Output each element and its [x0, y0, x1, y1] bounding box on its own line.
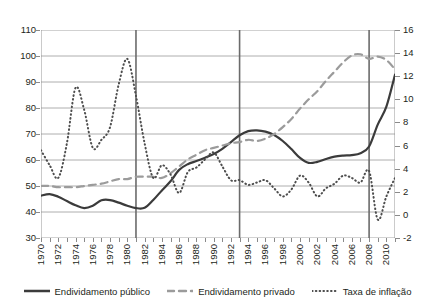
- x-axis-tick: [41, 238, 42, 242]
- x-axis-tick-label: 1980: [122, 244, 132, 265]
- x-axis-tick-label: 2008: [364, 244, 374, 265]
- x-axis-tick: [343, 238, 344, 242]
- x-axis-tick: [50, 238, 51, 242]
- x-axis-tick: [378, 238, 379, 242]
- x-axis-tick: [179, 238, 180, 242]
- x-axis: 1970197219741976197819801982198419861988…: [0, 0, 435, 307]
- legend-item-1[interactable]: Endividamento público: [24, 286, 151, 297]
- x-axis-tick: [257, 238, 258, 242]
- x-axis-tick: [153, 238, 154, 242]
- x-axis-tick: [248, 238, 249, 242]
- x-axis-tick-label: 1972: [53, 244, 63, 265]
- x-axis-tick: [145, 238, 146, 242]
- x-axis-tick: [136, 238, 137, 242]
- x-axis-tick: [162, 238, 163, 242]
- x-axis-tick-label: 1986: [174, 244, 184, 265]
- x-axis-tick: [101, 238, 102, 242]
- x-axis-tick: [395, 238, 396, 242]
- legend-item-2[interactable]: Endividamento privado: [167, 286, 295, 297]
- legend-label: Endividamento público: [55, 286, 151, 297]
- chart-legend: Endividamento públicoEndividamento priva…: [0, 281, 435, 301]
- legend-swatch-dashed-icon: [167, 286, 193, 296]
- x-axis-tick: [58, 238, 59, 242]
- x-axis-tick: [93, 238, 94, 242]
- x-axis-tick: [240, 238, 241, 242]
- x-axis-tick-label: 1998: [278, 244, 288, 265]
- x-axis-tick: [196, 238, 197, 242]
- x-axis-tick-label: 1996: [260, 244, 270, 265]
- x-axis-tick-label: 1974: [71, 244, 81, 265]
- x-axis-tick: [300, 238, 301, 242]
- x-axis-tick-label: 1992: [226, 244, 236, 265]
- x-axis-tick: [369, 238, 370, 242]
- x-axis-tick: [352, 238, 353, 242]
- x-axis-tick: [119, 238, 120, 242]
- x-axis-tick: [205, 238, 206, 242]
- legend-label: Taxa de inflação: [343, 286, 412, 297]
- x-axis-tick-label: 1978: [105, 244, 115, 265]
- x-axis-tick: [127, 238, 128, 242]
- x-axis-tick-label: 1990: [209, 244, 219, 265]
- x-axis-tick: [231, 238, 232, 242]
- x-axis-tick: [386, 238, 387, 242]
- legend-swatch-dotted-icon: [312, 286, 338, 296]
- x-axis-tick: [291, 238, 292, 242]
- x-axis-tick-label: 1976: [88, 244, 98, 265]
- x-axis-tick-label: 2010: [381, 244, 391, 265]
- legend-item-3[interactable]: Taxa de inflação: [312, 286, 412, 297]
- x-axis-tick: [76, 238, 77, 242]
- x-axis-tick: [222, 238, 223, 242]
- x-axis-tick: [110, 238, 111, 242]
- x-axis-tick-label: 2002: [312, 244, 322, 265]
- x-axis-tick: [67, 238, 68, 242]
- x-axis-tick-label: 1984: [157, 244, 167, 265]
- x-axis-tick: [265, 238, 266, 242]
- x-axis-tick: [171, 238, 172, 242]
- x-axis-tick-label: 1982: [140, 244, 150, 265]
- x-axis-tick: [326, 238, 327, 242]
- x-axis-tick: [274, 238, 275, 242]
- x-axis-tick: [317, 238, 318, 242]
- x-axis-tick-label: 1970: [36, 244, 46, 265]
- chart-container: 30405060708090100110 -20246810121416 197…: [0, 0, 435, 307]
- x-axis-tick: [335, 238, 336, 242]
- x-axis-tick-label: 1988: [191, 244, 201, 265]
- x-axis-tick-label: 2006: [347, 244, 357, 265]
- legend-label: Endividamento privado: [198, 286, 295, 297]
- x-axis-tick-label: 2000: [295, 244, 305, 265]
- x-axis-tick: [214, 238, 215, 242]
- x-axis-tick: [188, 238, 189, 242]
- x-axis-tick-label: 2004: [330, 244, 340, 265]
- x-axis-tick-label: 1994: [243, 244, 253, 265]
- x-axis-tick: [283, 238, 284, 242]
- x-axis-tick: [360, 238, 361, 242]
- x-axis-tick: [84, 238, 85, 242]
- legend-swatch-solid-icon: [24, 286, 50, 296]
- x-axis-tick: [309, 238, 310, 242]
